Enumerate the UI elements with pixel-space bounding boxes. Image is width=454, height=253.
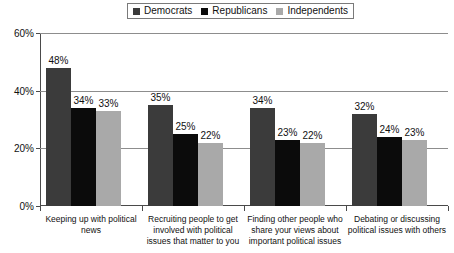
legend-entry-independents[interactable]: Independents xyxy=(276,6,348,16)
x-axis-category-label: Recruiting people to get involved with p… xyxy=(142,214,244,248)
bar-republicans[interactable]: 24% xyxy=(377,33,402,206)
y-tick-mark xyxy=(36,91,40,92)
x-tick-mark xyxy=(142,206,143,211)
bar-democrats[interactable]: 48% xyxy=(46,33,71,206)
square-swatch-icon xyxy=(276,8,283,15)
bar-republicans[interactable]: 34% xyxy=(71,33,96,206)
bar-independents[interactable]: 33% xyxy=(96,33,121,206)
bar-democrats[interactable]: 35% xyxy=(148,33,173,206)
legend-label: Democrats xyxy=(144,6,192,16)
x-tick-mark xyxy=(40,206,41,211)
y-axis-tick-label: 60% xyxy=(14,28,34,39)
bar-value-label: 48% xyxy=(48,56,68,66)
y-tick-mark xyxy=(36,148,40,149)
bar-rect[interactable] xyxy=(352,114,377,206)
bar-group-bars: 35%25%22% xyxy=(148,33,223,206)
x-tick-mark xyxy=(448,206,449,211)
square-swatch-icon xyxy=(201,8,208,15)
bar-value-label: 32% xyxy=(354,102,374,112)
bar-rect[interactable] xyxy=(300,143,325,206)
bar-value-label: 33% xyxy=(98,99,118,109)
bar-chart: DemocratsRepublicansIndependents 0%20%40… xyxy=(0,0,454,253)
chart-legend: DemocratsRepublicansIndependents xyxy=(127,3,354,19)
bar-independents[interactable]: 22% xyxy=(300,33,325,206)
bar-value-label: 25% xyxy=(175,122,195,132)
bar-group-bars: 32%24%23% xyxy=(352,33,427,206)
y-axis-tick-label: 20% xyxy=(14,143,34,154)
y-axis-tick-label: 40% xyxy=(14,85,34,96)
bar-value-label: 34% xyxy=(252,96,272,106)
bar-rect[interactable] xyxy=(275,140,300,206)
bar-rect[interactable] xyxy=(198,143,223,206)
legend-entry-republicans[interactable]: Republicans xyxy=(201,6,267,16)
square-swatch-icon xyxy=(133,8,140,15)
bar-group: 35%25%22% xyxy=(148,33,223,206)
bar-rect[interactable] xyxy=(173,134,198,206)
x-axis-category-label: Finding other people who share your view… xyxy=(244,214,346,248)
bar-group: 34%23%22% xyxy=(250,33,325,206)
legend-entry-democrats[interactable]: Democrats xyxy=(133,6,192,16)
bar-republicans[interactable]: 23% xyxy=(275,33,300,206)
bar-group-bars: 34%23%22% xyxy=(250,33,325,206)
y-axis-tick-label: 0% xyxy=(20,201,34,212)
bar-value-label: 23% xyxy=(277,128,297,138)
bar-democrats[interactable]: 32% xyxy=(352,33,377,206)
x-tick-mark xyxy=(244,206,245,211)
x-tick-mark xyxy=(346,206,347,211)
bar-group-bars: 48%34%33% xyxy=(46,33,121,206)
bar-value-label: 22% xyxy=(200,131,220,141)
bar-rect[interactable] xyxy=(71,108,96,206)
bar-democrats[interactable]: 34% xyxy=(250,33,275,206)
legend-label: Independents xyxy=(287,6,348,16)
bar-independents[interactable]: 23% xyxy=(402,33,427,206)
bar-group: 48%34%33% xyxy=(46,33,121,206)
bar-rect[interactable] xyxy=(96,111,121,206)
bar-rect[interactable] xyxy=(148,105,173,206)
bar-rect[interactable] xyxy=(250,108,275,206)
y-tick-mark xyxy=(36,33,40,34)
bar-value-label: 34% xyxy=(73,96,93,106)
x-axis-category-label: Debating or discussing political issues … xyxy=(346,214,448,236)
bar-group: 32%24%23% xyxy=(352,33,427,206)
bar-republicans[interactable]: 25% xyxy=(173,33,198,206)
bar-rect[interactable] xyxy=(46,68,71,206)
bar-value-label: 24% xyxy=(379,125,399,135)
bar-value-label: 22% xyxy=(302,131,322,141)
bar-rect[interactable] xyxy=(377,137,402,206)
legend-label: Republicans xyxy=(212,6,267,16)
x-axis-category-label: Keeping up with political news xyxy=(40,214,142,236)
bar-value-label: 23% xyxy=(404,128,424,138)
bar-independents[interactable]: 22% xyxy=(198,33,223,206)
bar-rect[interactable] xyxy=(402,140,427,206)
plot-area: 0%20%40%60% 48%34%33%35%25%22%34%23%22%3… xyxy=(40,33,448,206)
bar-value-label: 35% xyxy=(150,93,170,103)
